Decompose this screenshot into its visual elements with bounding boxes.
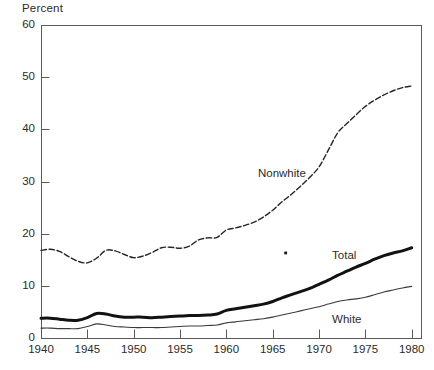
y-axis-title: Percent — [22, 2, 63, 14]
chart-figure: Percent 0102030405060 194019451950195519… — [0, 0, 434, 370]
y-tick-label-50: 50 — [9, 70, 35, 82]
y-tick-label-0: 0 — [9, 331, 35, 343]
stray-print-mark — [284, 252, 287, 255]
y-tick-label-20: 20 — [9, 227, 35, 239]
x-tick-label-1960: 1960 — [204, 343, 248, 355]
series-annotation-nonwhite: Nonwhite — [258, 167, 306, 179]
x-tick-label-1970: 1970 — [297, 343, 341, 355]
x-tick-label-1955: 1955 — [158, 343, 202, 355]
x-tick-label-1975: 1975 — [343, 343, 387, 355]
y-tick-label-30: 30 — [9, 175, 35, 187]
x-tick-label-1940: 1940 — [19, 343, 63, 355]
y-tick-label-40: 40 — [9, 122, 35, 134]
line-chart-plot-area — [0, 0, 434, 370]
series-annotation-white: White — [332, 313, 361, 325]
x-tick-label-1950: 1950 — [112, 343, 156, 355]
x-tick-label-1965: 1965 — [251, 343, 295, 355]
series-annotation-total: Total — [332, 249, 356, 261]
x-tick-label-1980: 1980 — [390, 343, 434, 355]
x-tick-label-1945: 1945 — [65, 343, 109, 355]
y-tick-label-60: 60 — [9, 18, 35, 30]
y-tick-label-10: 10 — [9, 279, 35, 291]
